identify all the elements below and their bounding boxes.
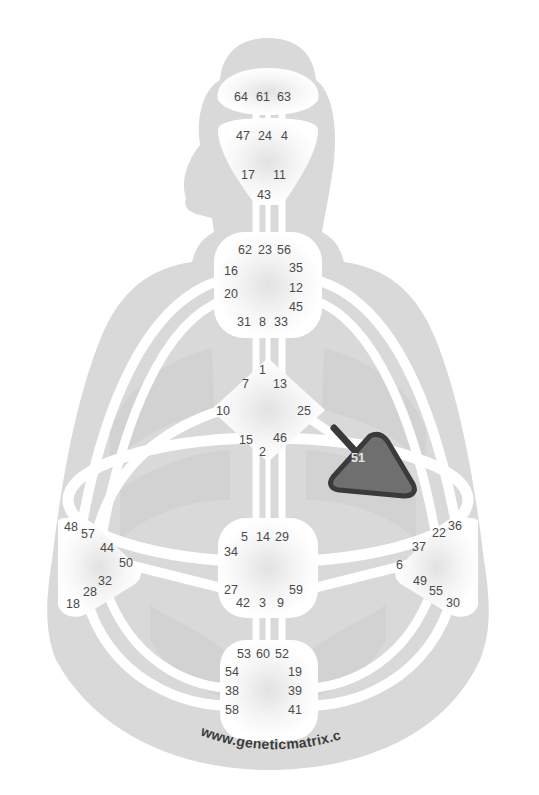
bodygraph: 64 61 63 47 24 4 17 11 43 62 23 56 16 35…	[0, 0, 539, 795]
gate-62: 62	[238, 243, 252, 257]
gate-34: 34	[224, 545, 238, 559]
gate-59: 59	[289, 583, 303, 597]
gate-5: 5	[241, 530, 248, 544]
gate-24: 24	[258, 129, 272, 143]
gate-45: 45	[289, 300, 303, 314]
gate-56: 56	[277, 243, 291, 257]
gate-52: 52	[275, 647, 289, 661]
gate-33: 33	[274, 315, 288, 329]
gate-12: 12	[289, 281, 303, 295]
gate-35: 35	[289, 261, 303, 275]
gate-29: 29	[275, 530, 289, 544]
gate-49: 49	[413, 574, 427, 588]
gate-23: 23	[258, 243, 272, 257]
gate-64: 64	[234, 90, 248, 104]
gate-42: 42	[236, 596, 250, 610]
gate-58: 58	[225, 703, 239, 717]
gate-6: 6	[396, 558, 403, 572]
gate-28: 28	[83, 585, 97, 599]
gate-43: 43	[257, 188, 271, 202]
gate-10: 10	[216, 404, 230, 418]
gate-18: 18	[66, 597, 80, 611]
gate-44: 44	[100, 541, 114, 555]
gate-2: 2	[259, 445, 266, 459]
gate-4: 4	[281, 129, 288, 143]
gate-11: 11	[273, 168, 286, 182]
gate-55: 55	[429, 584, 443, 598]
gate-22: 22	[432, 526, 446, 540]
gate-31: 31	[237, 315, 251, 329]
gate-15: 15	[239, 433, 253, 447]
gate-13: 13	[273, 377, 287, 391]
gate-46: 46	[273, 431, 287, 445]
gate-50: 50	[119, 556, 133, 570]
gate-20: 20	[224, 287, 238, 301]
gate-41: 41	[288, 703, 302, 717]
gate-3: 3	[259, 596, 266, 610]
gate-8: 8	[259, 315, 266, 329]
gate-63: 63	[277, 90, 291, 104]
gate-32: 32	[98, 574, 112, 588]
gate-57: 57	[81, 527, 95, 541]
gate-9: 9	[277, 596, 284, 610]
gate-54: 54	[225, 665, 239, 679]
gate-25: 25	[297, 404, 311, 418]
gate-53: 53	[237, 647, 251, 661]
gate-36: 36	[448, 519, 462, 533]
gate-16: 16	[224, 264, 238, 278]
gate-27: 27	[224, 583, 238, 597]
gate-7: 7	[242, 377, 249, 391]
gate-30: 30	[446, 596, 460, 610]
gate-19: 19	[288, 665, 302, 679]
gate-17: 17	[241, 168, 255, 182]
gate-39: 39	[288, 684, 302, 698]
gate-47: 47	[236, 129, 250, 143]
gate-14: 14	[256, 530, 270, 544]
gate-48: 48	[64, 520, 78, 534]
gate-1: 1	[259, 363, 266, 377]
gate-60: 60	[256, 647, 270, 661]
gate-51: 51	[351, 451, 365, 465]
gate-38: 38	[225, 684, 239, 698]
gate-37: 37	[412, 540, 426, 554]
gate-61: 61	[256, 90, 270, 104]
